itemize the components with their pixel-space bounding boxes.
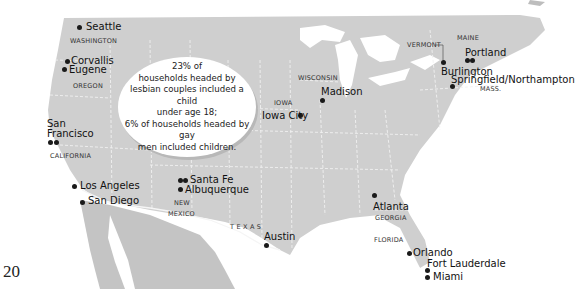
city-dot-eugene: [62, 67, 67, 72]
state-label-wisconsin: WISCONSIN: [298, 74, 338, 82]
city-dot-miami: [425, 275, 430, 280]
state-label-vermont: VERMONT: [407, 41, 441, 49]
city-dot-los-angeles: [72, 184, 77, 189]
city-label-miami: Miami: [433, 271, 463, 282]
corner-decoration: [528, 0, 545, 6]
city-dot-san-francisco: [54, 140, 59, 145]
city-label-madison: Madison: [321, 86, 363, 97]
city-dot-burlington: [441, 60, 446, 65]
callout-line: under age 18;: [125, 107, 250, 119]
state-label-texas: T E X A S: [230, 223, 261, 231]
city-label-springfield: Springfield/Northampton: [451, 74, 575, 85]
callout-line: households headed by: [125, 73, 250, 85]
city-label-eugene: Eugene: [69, 64, 107, 75]
statistic-callout: 23% of households headed by lesbian coup…: [118, 57, 256, 157]
city-label-albuquerque: Albuquerque: [185, 184, 249, 195]
city-label-san-francisco: Francisco: [47, 128, 94, 139]
city-label-austin: Austin: [264, 231, 295, 242]
city-dot-orlando: [407, 251, 412, 256]
page-number: 20: [3, 262, 20, 282]
callout-text: 23% of households headed by lesbian coup…: [125, 61, 250, 153]
state-label-new-mexico: NEW: [174, 199, 190, 207]
city-label-los-angeles: Los Angeles: [80, 180, 140, 191]
state-label-iowa: IOWA: [274, 99, 292, 107]
state-label-massachusetts: MASS.: [480, 85, 501, 93]
state-label-california: CALIFORNIA: [50, 152, 91, 160]
state-label-georgia: GEORGIA: [375, 214, 407, 222]
city-dot-santa-fe: [183, 178, 188, 183]
state-label-washington: WASHINGTON: [70, 37, 117, 45]
callout-line: 6% of households headed by gay: [125, 119, 250, 142]
callout-line: men included children.: [125, 142, 250, 154]
city-dot-madison: [320, 98, 325, 103]
city-label-orlando: Orlando: [413, 247, 453, 258]
city-label-san-diego: San Diego: [88, 195, 139, 206]
state-label-florida: FLORIDA: [374, 236, 403, 244]
state-label-maine: MAINE: [457, 34, 479, 42]
callout-line: lesbian couples included a child: [125, 84, 250, 107]
callout-line: 23% of: [125, 61, 250, 73]
city-label-portland: Portland: [465, 47, 506, 58]
city-dot-san-diego: [80, 200, 85, 205]
city-label-atlanta: Atlanta: [373, 201, 409, 212]
city-dot-seattle: [77, 25, 82, 30]
city-dot-austin: [264, 243, 269, 248]
city-label-seattle: Seattle: [86, 21, 121, 32]
city-label-iowa-city: Iowa City: [262, 110, 308, 121]
state-label-oregon: OREGON: [73, 82, 103, 90]
city-dot-san-francisco: [48, 140, 53, 145]
city-label-fort-lauderdale: Fort Lauderdale: [427, 258, 506, 269]
state-label-new-mexico: MEXICO: [168, 210, 195, 218]
city-dot-atlanta: [372, 193, 377, 198]
city-dot-albuquerque: [178, 187, 183, 192]
city-dot-portland: [470, 58, 475, 63]
